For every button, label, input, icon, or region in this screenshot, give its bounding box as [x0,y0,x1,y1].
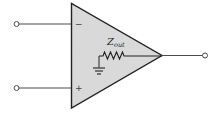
op-amp-diagram: − + Z out [0,0,221,118]
minus-sign: − [75,19,83,29]
output-terminal [203,53,208,58]
inverting-input-terminal [14,22,19,27]
svg-text:out: out [114,41,125,49]
non-inverting-input-terminal [14,86,19,91]
plus-sign: + [75,83,83,93]
